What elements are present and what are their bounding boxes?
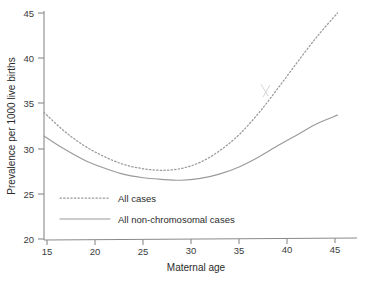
y-tick-label: 45 [23, 8, 34, 19]
x-tick-label: 40 [282, 244, 293, 255]
y-tick-label: 25 [23, 189, 34, 200]
x-tick-label: 20 [90, 246, 101, 257]
x-axis-title: Maternal age [167, 262, 226, 273]
series-all-cases-path [44, 13, 337, 170]
y-axis-ticks: 45 40 35 30 25 20 [23, 8, 44, 245]
x-axis-line [44, 238, 357, 240]
legend-label-all-non-chromosomal-cases: All non-chromosomal cases [118, 214, 235, 225]
scan-artifact [261, 84, 270, 97]
y-tick-label: 40 [23, 53, 34, 64]
y-axis-title: Prevalence per 1000 live births [6, 57, 17, 194]
x-tick-label: 25 [138, 246, 149, 257]
y-tick-label: 30 [23, 144, 34, 155]
x-tick-label: 30 [186, 245, 197, 256]
chart-figure: 45 40 35 30 25 20 15 20 25 30 35 40 45 M… [0, 0, 370, 284]
y-tick-label: 20 [23, 234, 34, 245]
x-tick-label: 45 [330, 244, 341, 255]
y-tick-label: 35 [23, 98, 34, 109]
prevalence-vs-maternal-age-chart: 45 40 35 30 25 20 15 20 25 30 35 40 45 M… [0, 0, 370, 284]
chart-legend: All cases All non-chromosomal cases [60, 193, 235, 225]
legend-label-all-cases: All cases [118, 193, 156, 204]
x-tick-label: 15 [42, 246, 53, 257]
x-tick-label: 35 [234, 245, 245, 256]
series-all-non-chromosomal-cases-path [44, 115, 337, 180]
x-axis-ticks: 15 20 25 30 35 40 45 [42, 238, 341, 257]
plot-series [44, 13, 337, 180]
